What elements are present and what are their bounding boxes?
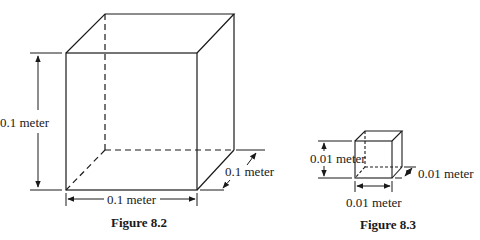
large-height-label: 0.1 meter	[0, 115, 50, 130]
small-depth-dimension	[395, 167, 416, 178]
small-height-label: 0.01 meter	[310, 151, 366, 166]
large-cube-front-face	[66, 53, 197, 190]
large-cube-top-edges	[66, 14, 234, 53]
figure-8-2-caption: Figure 8.2	[111, 215, 167, 230]
large-width-label: 0.1 meter	[107, 192, 157, 207]
large-cube	[66, 14, 234, 190]
diagram-canvas: 0.1 meter 0.1 meter 0.1 meter Figure 8.2	[0, 0, 480, 240]
small-depth-label: 0.01 meter	[418, 166, 474, 181]
small-width-label: 0.01 meter	[346, 195, 402, 210]
small-cube-top-edges	[355, 131, 402, 141]
small-width-dimension	[355, 181, 392, 192]
figure-8-3-caption: Figure 8.3	[360, 217, 417, 232]
large-depth-label: 0.1 meter	[225, 164, 275, 179]
